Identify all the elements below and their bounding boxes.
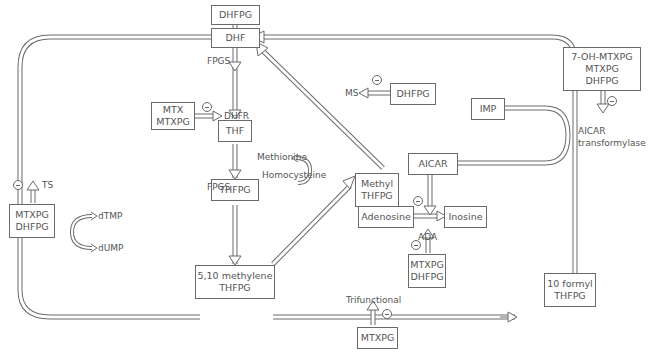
- ts-inhib-line1: MTXPG: [15, 209, 49, 221]
- node-thf: THF: [218, 120, 252, 142]
- node-dhfpg-top: DHFPG: [211, 5, 260, 25]
- label-fpgs-mid: FPGS: [207, 182, 230, 193]
- ada-inhib-line2: DHFPG: [410, 271, 443, 283]
- aicar-inhib-line2: MTXPG: [585, 63, 619, 75]
- aicar-tf-line1: AICAR: [578, 125, 646, 137]
- ada-inhib-line1: MTXPG: [410, 259, 444, 271]
- node-mtx: MTX MTXPG: [151, 102, 195, 130]
- label-homocysteine: Homocysteine: [262, 170, 326, 181]
- label-aicar-transformylase: AICAR transformylase: [578, 125, 646, 149]
- node-dhfpg-ms: DHFPG: [390, 83, 436, 105]
- mtx-line1: MTX: [163, 104, 184, 116]
- node-imp: IMP: [471, 98, 505, 120]
- node-ts-inhibitors: MTXPG DHFPG: [9, 204, 55, 238]
- label-methionine: Methionine: [257, 152, 307, 163]
- label-ms: MS: [345, 88, 358, 99]
- node-adenosine: Adenosine: [358, 206, 414, 228]
- inhibit-ms-icon: [372, 75, 382, 85]
- label-dump: dUMP: [98, 243, 124, 254]
- label-fpgs-top: FPGS: [207, 56, 230, 67]
- formyl-line2: THFPG: [554, 290, 586, 302]
- node-formyl: 10 formyl THFPG: [544, 273, 596, 307]
- label-ts: TS: [42, 180, 53, 191]
- formyl-line1: 10 formyl: [547, 278, 593, 290]
- node-ada-inhibitors: MTXPG DHFPG: [408, 254, 446, 288]
- inhibit-ada-icon: [411, 240, 421, 250]
- methylene-line1: 5,10 methylene: [198, 270, 273, 282]
- ts-inhib-line2: DHFPG: [15, 221, 48, 233]
- node-methylene: 5,10 methylene THFPG: [195, 265, 275, 299]
- label-dtmp: dTMP: [98, 211, 122, 222]
- node-aicar: AICAR: [408, 153, 458, 175]
- mtx-line2: MTXPG: [156, 116, 190, 128]
- label-ada: ADA: [418, 232, 437, 243]
- methylene-line2: THFPG: [219, 282, 251, 294]
- aicar-inhib-line3: DHFPG: [585, 75, 618, 87]
- inhibit-aicar-transformylase-icon: [607, 96, 617, 106]
- node-inosine: Inosine: [444, 206, 487, 228]
- label-trifunctional: Trifunctional: [346, 295, 401, 306]
- inhibit-aicar-icon: [413, 196, 423, 206]
- inhibit-ts-icon: [13, 180, 23, 190]
- node-trifunctional-inhibitor: MTXPG: [357, 327, 398, 349]
- node-aicar-inhibitors: 7-OH-MTXPG MTXPG DHFPG: [563, 47, 641, 91]
- aicar-inhib-line1: 7-OH-MTXPG: [571, 51, 632, 63]
- inhibit-trifunctional-icon: [382, 309, 392, 319]
- methyl-line2: THFPG: [361, 190, 393, 202]
- aicar-tf-line2: transformylase: [578, 137, 646, 149]
- node-methyl: Methyl THFPG: [355, 173, 399, 207]
- node-dhf: DHF: [211, 28, 260, 48]
- methyl-line1: Methyl: [361, 178, 393, 190]
- inhibit-dhfr-icon: [202, 102, 212, 112]
- label-dhfr: DHFR: [224, 111, 249, 122]
